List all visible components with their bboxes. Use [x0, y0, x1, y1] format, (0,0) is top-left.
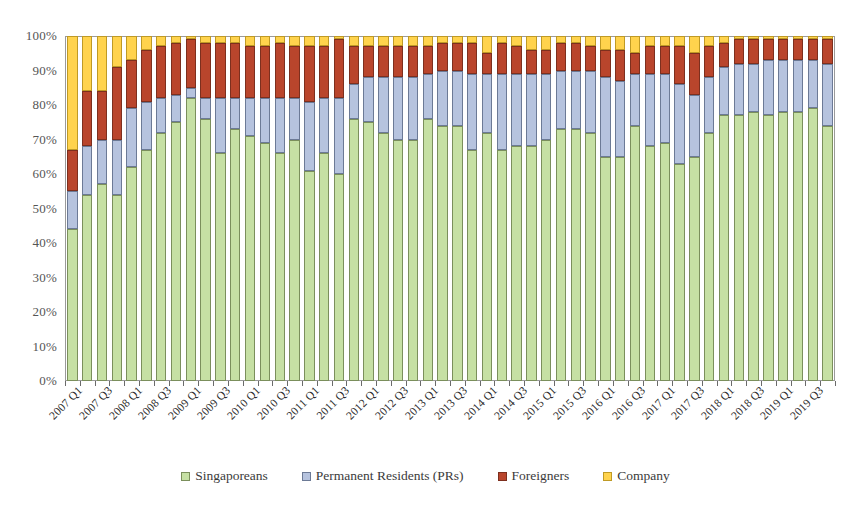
bar-segment-co	[482, 36, 492, 53]
bar-segment-co	[126, 36, 136, 60]
bar-segment-sg	[482, 133, 492, 381]
bar[interactable]	[437, 36, 447, 381]
bar[interactable]	[245, 36, 255, 381]
bar[interactable]	[423, 36, 433, 381]
bar-segment-fg	[378, 46, 388, 77]
bar[interactable]	[808, 36, 818, 381]
bar-segment-co	[349, 36, 359, 46]
bar[interactable]	[793, 36, 803, 381]
bar[interactable]	[748, 36, 758, 381]
bar[interactable]	[615, 36, 625, 381]
bar[interactable]	[171, 36, 181, 381]
bar-segment-sg	[541, 140, 551, 382]
bar[interactable]	[82, 36, 92, 381]
bar[interactable]	[186, 36, 196, 381]
bar-segment-co	[497, 36, 507, 43]
bar-segment-pr	[793, 60, 803, 112]
bar-segment-pr	[645, 74, 655, 146]
bar[interactable]	[393, 36, 403, 381]
bar-segment-sg	[112, 195, 122, 381]
bar[interactable]	[230, 36, 240, 381]
legend-swatch-icon	[498, 472, 507, 481]
bar[interactable]	[275, 36, 285, 381]
bar-segment-sg	[763, 115, 773, 381]
bar-segment-sg	[82, 195, 92, 381]
bar-segment-fg	[408, 46, 418, 77]
bar[interactable]	[452, 36, 462, 381]
bar-segment-fg	[319, 46, 329, 98]
bar[interactable]	[260, 36, 270, 381]
bar[interactable]	[600, 36, 610, 381]
bar[interactable]	[97, 36, 107, 381]
legend-item-pr[interactable]: Permanent Residents (PRs)	[302, 468, 464, 484]
bar[interactable]	[526, 36, 536, 381]
legend-item-sg[interactable]: Singaporeans	[181, 468, 268, 484]
y-tick-label: 100%	[26, 28, 57, 44]
bar[interactable]	[126, 36, 136, 381]
bar[interactable]	[674, 36, 684, 381]
bar[interactable]	[630, 36, 640, 381]
bar-segment-sg	[674, 164, 684, 381]
bar-segment-fg	[719, 43, 729, 67]
bar-segment-co	[556, 36, 566, 43]
bar[interactable]	[778, 36, 788, 381]
bar[interactable]	[156, 36, 166, 381]
bar[interactable]	[689, 36, 699, 381]
bar[interactable]	[497, 36, 507, 381]
bar-segment-pr	[630, 74, 640, 126]
bar-segment-sg	[645, 146, 655, 381]
bar-segment-sg	[245, 136, 255, 381]
bar-segment-fg	[467, 43, 477, 74]
bar-segment-sg	[186, 98, 196, 381]
bar[interactable]	[585, 36, 595, 381]
bar-segment-sg	[793, 112, 803, 381]
bar-segment-fg	[585, 46, 595, 70]
bar[interactable]	[349, 36, 359, 381]
bar-segment-pr	[660, 74, 670, 143]
bar-segment-sg	[556, 129, 566, 381]
bar[interactable]	[363, 36, 373, 381]
bar-segment-pr	[275, 98, 285, 153]
bar[interactable]	[704, 36, 714, 381]
bar-segment-fg	[245, 46, 255, 98]
bar-segment-sg	[778, 112, 788, 381]
legend-item-co[interactable]: Company	[603, 468, 670, 484]
bar-segment-co	[689, 36, 699, 53]
bar-segment-fg	[511, 46, 521, 74]
bar-segment-sg	[408, 140, 418, 382]
bar[interactable]	[141, 36, 151, 381]
bar[interactable]	[556, 36, 566, 381]
bar-segment-sg	[704, 133, 714, 381]
bar-segment-pr	[408, 77, 418, 139]
bar[interactable]	[67, 36, 77, 381]
bar[interactable]	[200, 36, 210, 381]
bar[interactable]	[660, 36, 670, 381]
legend-item-fg[interactable]: Foreigners	[498, 468, 570, 484]
bar[interactable]	[467, 36, 477, 381]
bar[interactable]	[334, 36, 344, 381]
bar[interactable]	[482, 36, 492, 381]
bar[interactable]	[734, 36, 744, 381]
x-axis-labels: 2007 Q12007 Q32008 Q12008 Q32009 Q12009 …	[0, 384, 851, 464]
bar[interactable]	[215, 36, 225, 381]
bar-segment-fg	[260, 46, 270, 98]
bar[interactable]	[289, 36, 299, 381]
bar-segment-co	[97, 36, 107, 91]
bar[interactable]	[408, 36, 418, 381]
bar[interactable]	[319, 36, 329, 381]
bar[interactable]	[304, 36, 314, 381]
bar[interactable]	[112, 36, 122, 381]
bar[interactable]	[822, 36, 832, 381]
bar[interactable]	[719, 36, 729, 381]
legend-label: Singaporeans	[195, 468, 268, 484]
bar[interactable]	[541, 36, 551, 381]
bar[interactable]	[763, 36, 773, 381]
bar[interactable]	[378, 36, 388, 381]
bar[interactable]	[571, 36, 581, 381]
bar[interactable]	[511, 36, 521, 381]
bar[interactable]	[645, 36, 655, 381]
bar-segment-fg	[615, 50, 625, 81]
bar-segment-co	[408, 36, 418, 46]
bar-segment-sg	[349, 119, 359, 381]
y-tick-label: 40%	[33, 235, 57, 251]
